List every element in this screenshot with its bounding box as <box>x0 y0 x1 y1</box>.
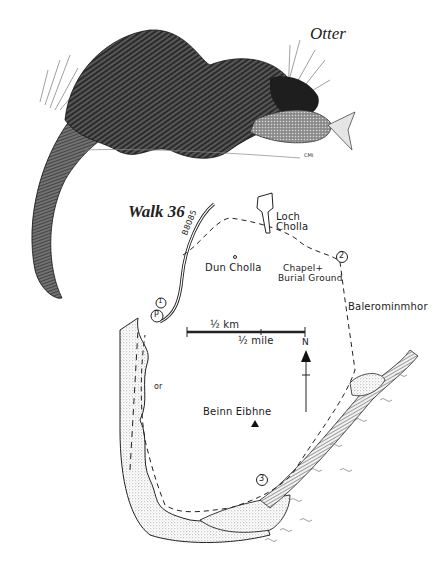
loch-cholla-label: Loch Cholla <box>276 212 316 232</box>
dun-marker <box>234 256 237 259</box>
north-label: N <box>302 337 309 347</box>
chapel-label-line2: Burial Ground <box>278 273 343 283</box>
summit-marker <box>251 420 259 427</box>
dun-cholla-label: Dun Cholla <box>205 262 262 273</box>
beinn-eibhne-label: Beinn Eibhne <box>203 406 271 417</box>
east-shore <box>260 350 418 508</box>
chapel-label-line1: Chapel+ <box>283 263 323 273</box>
shore-label: or <box>154 382 163 391</box>
waypoint-2: 2 <box>339 251 344 260</box>
scale-km-label: ½ km <box>210 319 239 330</box>
sea-waves <box>265 374 407 542</box>
waypoint-1: 1 <box>158 297 163 305</box>
waypoint-p: P <box>154 310 159 319</box>
waypoint-3: 3 <box>259 474 264 483</box>
balerominmhor-label: Balerominmhor <box>348 301 428 312</box>
illustration-title: Otter <box>310 24 346 44</box>
scale-mile-label: ½ mile <box>238 335 274 346</box>
walk-map <box>0 0 446 574</box>
map-title: Walk 36 <box>128 202 185 222</box>
